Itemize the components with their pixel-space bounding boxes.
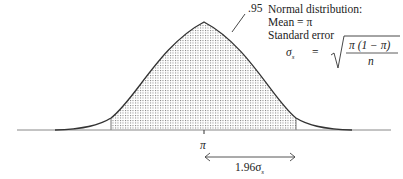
annotation-line3: Standard error	[268, 29, 334, 42]
annotation-line1: Normal distribution:	[268, 3, 362, 16]
formula-lhs: σs	[286, 46, 294, 64]
area-label: .95	[248, 2, 262, 15]
area-pointer-line	[232, 14, 245, 32]
mean-label: π	[200, 139, 206, 152]
interval-label: 1.96σs	[235, 161, 264, 179]
formula-numerator: π (1 − π)	[349, 39, 390, 52]
annotation-line2: Mean = π	[268, 16, 312, 29]
distribution-diagram	[0, 0, 403, 179]
formula-denominator: n	[368, 55, 374, 68]
formula-equals: =	[312, 46, 319, 59]
